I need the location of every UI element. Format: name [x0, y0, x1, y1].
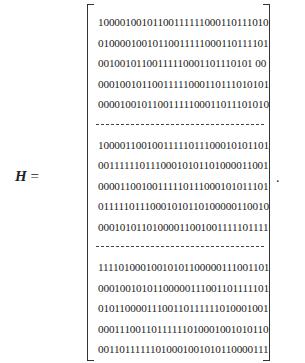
matrix-row: 11110100010010101100000111001101 [98, 257, 260, 278]
matrix-row: 10000110010011111011100010101101 [98, 135, 260, 156]
trailing-period: . [276, 170, 280, 186]
matrix-row: 00010101101000011001001111101111 [98, 217, 260, 238]
matrix-row: 00010010101100000111001101111101 [98, 278, 260, 299]
matrix-row: 00001001011001111100011011101010 [98, 94, 260, 115]
block-separator [98, 115, 260, 135]
matrix-row: 00010010110011111000110111010101 [98, 74, 260, 95]
matrix-row: 01011000011100110111111010001001 [98, 298, 260, 319]
matrix-block-1: 10000100101100111111000110111010 0100001… [98, 12, 260, 115]
matrix-row: 10000100101100111111000110111010 [98, 12, 260, 33]
equals-sign: = [30, 168, 38, 184]
parity-check-matrix: 10000100101100111111000110111010 0100001… [98, 12, 260, 360]
matrix-row: 00100101100111110001101110101 00 [98, 53, 260, 74]
left-bracket [87, 4, 94, 361]
matrix-row: 00011100110111111010001001010110 [98, 319, 260, 340]
matrix-label: H = [15, 168, 39, 185]
matrix-row: 01111101110001010110100000110010 [98, 196, 260, 217]
matrix-row: 00110111111010001001010110000111 [98, 339, 260, 360]
block-separator [98, 237, 260, 257]
matrix-block-2: 10000110010011111011100010101101 0011111… [98, 135, 260, 238]
matrix-row: 00001100100111110111000101011101 [98, 176, 260, 197]
matrix-block-3: 11110100010010101100000111001101 0001001… [98, 257, 260, 360]
matrix-symbol: H [15, 168, 27, 184]
matrix-row: 00111111011100010101101000011001 [98, 155, 260, 176]
matrix-row: 01000010010110011111000110111101 [98, 33, 260, 54]
